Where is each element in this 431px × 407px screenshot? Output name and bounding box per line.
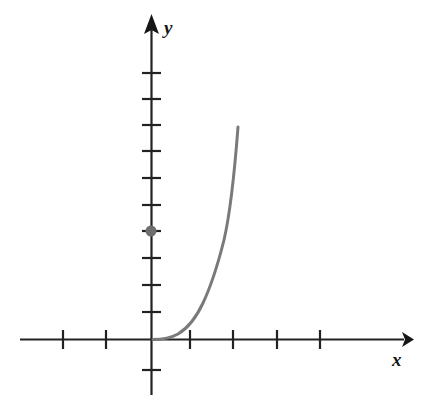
coordinate-plane bbox=[0, 0, 431, 407]
graph-figure: y x bbox=[0, 0, 431, 407]
x-axis-group bbox=[20, 330, 414, 349]
exponential-curve bbox=[153, 127, 238, 340]
y-axis-label: y bbox=[164, 18, 172, 37]
y-intercept-dot bbox=[146, 226, 157, 237]
x-axis-label: x bbox=[392, 350, 402, 369]
